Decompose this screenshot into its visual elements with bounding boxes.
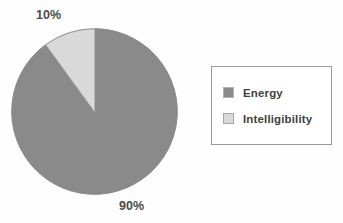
legend-item-intelligibility: Intelligibility [223,106,331,132]
legend-swatch-energy-icon [223,87,234,98]
legend-item-energy: Energy [223,80,331,106]
chart-legend: Energy Intelligibility [211,66,332,145]
data-label-energy-percent: 90% [119,199,144,213]
legend-label-intelligibility: Intelligibility [243,113,312,125]
legend-swatch-intelligibility-icon [223,113,234,124]
pie-chart [11,28,178,195]
pie-chart-svg [11,28,178,195]
pie-chart-figure-canvas: 10% 90% Energy Intelligibility [0,0,343,223]
legend-label-energy: Energy [243,87,283,99]
data-label-intelligibility-percent: 10% [36,8,61,22]
